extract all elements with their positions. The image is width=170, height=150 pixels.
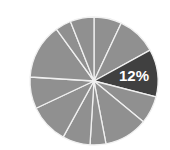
pie-chart: 12% [0,0,170,150]
slice-data-label: 12% [119,67,149,84]
pie-labels: 12% [119,67,149,84]
